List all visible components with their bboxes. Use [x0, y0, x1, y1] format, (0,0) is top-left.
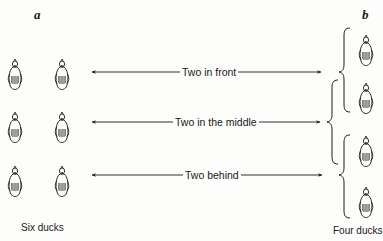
duck-icon	[8, 166, 21, 197]
caption-six-ducks: Six ducks	[21, 222, 64, 233]
duck-icon	[55, 166, 68, 197]
duck-icon	[359, 83, 372, 114]
panel-a-ducks	[8, 59, 68, 197]
duck-icon	[55, 112, 68, 143]
curly-brace-icon	[327, 28, 350, 218]
caption-four-ducks: Four ducks	[333, 225, 382, 236]
arrow-label-front: Two in front	[180, 66, 238, 78]
duck-icon	[359, 35, 372, 66]
duck-icon	[8, 112, 21, 143]
duck-icon	[359, 187, 372, 218]
arrow-label-middle: Two in the middle	[173, 116, 259, 128]
duck-icon	[8, 59, 21, 90]
duck-icon	[359, 136, 372, 167]
arrow-label-behind: Two behind	[183, 169, 241, 181]
panel-b-ducks	[359, 35, 372, 218]
duck-icon	[55, 59, 68, 90]
